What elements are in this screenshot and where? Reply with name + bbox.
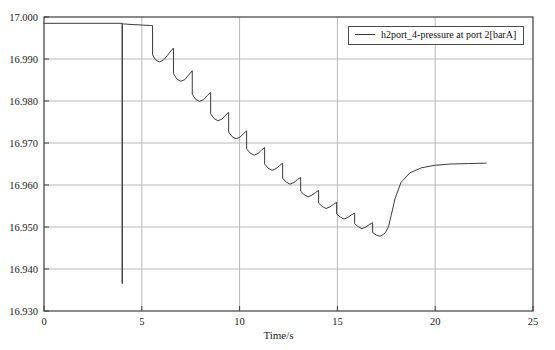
x-axis-tick-labels: 0510152025 xyxy=(41,316,538,327)
y-axis-tick-labels: 16.93016.94016.95016.96016.97016.98016.9… xyxy=(9,12,38,317)
x-tick-label: 10 xyxy=(234,316,245,327)
y-tick-label: 16.980 xyxy=(9,96,38,107)
y-tick-label: 17.000 xyxy=(9,12,38,23)
x-tick-label: 0 xyxy=(41,316,46,327)
legend-line-swatch-icon xyxy=(355,34,375,35)
x-tick-label: 20 xyxy=(430,316,441,327)
line-chart-plot: 16.93016.94016.95016.96016.97016.98016.9… xyxy=(0,0,555,350)
x-axis-title: Time/s xyxy=(263,329,293,341)
y-tick-label: 16.950 xyxy=(9,222,38,233)
series-line xyxy=(44,23,486,283)
data-series-group xyxy=(44,23,486,283)
y-tick-label: 16.970 xyxy=(9,138,38,149)
y-tick-label: 16.940 xyxy=(9,264,38,275)
y-tick-label: 16.930 xyxy=(9,306,38,317)
y-tick-label: 16.990 xyxy=(9,54,38,65)
chart-legend: h2port_4-pressure at port 2[barA] xyxy=(348,26,524,45)
x-tick-label: 25 xyxy=(528,316,539,327)
chart-container: 16.93016.94016.95016.96016.97016.98016.9… xyxy=(0,0,555,350)
x-axis-label: Time/s xyxy=(263,329,293,341)
legend-entry-label: h2port_4-pressure at port 2[barA] xyxy=(381,29,516,41)
y-tick-label: 16.960 xyxy=(9,180,38,191)
x-tick-label: 5 xyxy=(139,316,144,327)
x-tick-label: 15 xyxy=(332,316,343,327)
